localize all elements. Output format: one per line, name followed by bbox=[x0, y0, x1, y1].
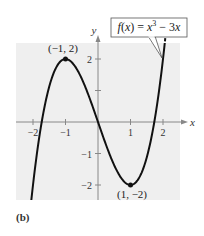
x-axis-arrow-icon bbox=[181, 120, 188, 125]
panel-label: (b) bbox=[16, 211, 29, 223]
max-point-label: (−1, 2) bbox=[48, 42, 78, 55]
min-point-label: (1, −2) bbox=[117, 188, 147, 201]
y-axis-arrow-icon bbox=[96, 35, 101, 42]
y-tick-label: 2 bbox=[87, 54, 92, 65]
function-graph: x y −2−112 −2−12 (−1, 2) (1, −2) f(x) = … bbox=[0, 0, 204, 236]
y-axis-label: y bbox=[91, 24, 97, 36]
x-tick-label: −1 bbox=[60, 127, 71, 138]
y-tick-label: −2 bbox=[81, 180, 92, 191]
min-point bbox=[128, 183, 133, 188]
x-axis-label: x bbox=[189, 116, 195, 128]
x-tick-label: −2 bbox=[28, 127, 39, 138]
max-point bbox=[63, 57, 68, 62]
function-label: f(x) = x3 − 3x bbox=[118, 19, 182, 34]
x-tick-label: 1 bbox=[128, 127, 133, 138]
y-tick-label: −1 bbox=[81, 149, 92, 160]
x-tick-label: 2 bbox=[161, 127, 166, 138]
